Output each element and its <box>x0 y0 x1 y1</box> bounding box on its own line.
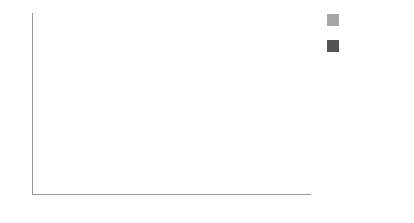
legend-item-non-offender <box>327 10 347 30</box>
legend-swatch-offender <box>327 40 339 52</box>
legend-swatch-non-offender <box>327 14 339 26</box>
x-axis-line <box>32 194 311 195</box>
stacked-bar-chart <box>0 0 414 223</box>
legend-item-offender <box>327 36 347 56</box>
y-axis-line <box>32 13 33 194</box>
legend <box>327 10 347 62</box>
